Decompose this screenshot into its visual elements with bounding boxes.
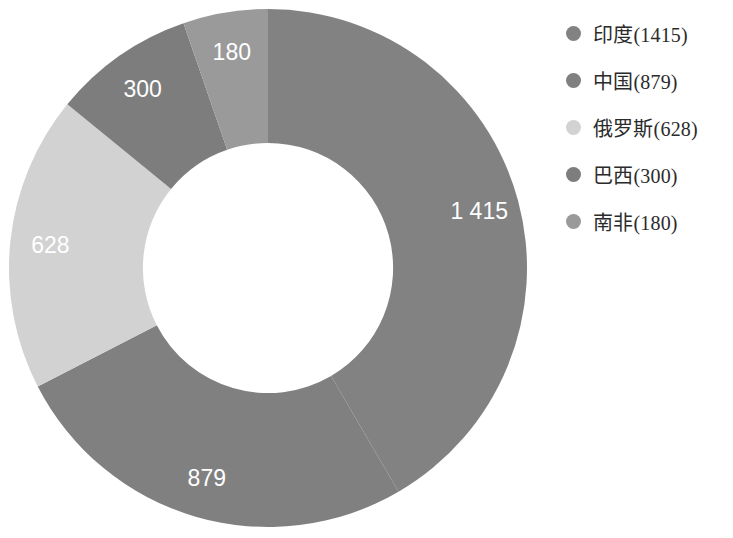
legend-item-label: 南非(180) bbox=[593, 207, 678, 236]
donut-chart: 1 415879628300180 印度(1415)中国(879)俄罗斯(628… bbox=[0, 0, 733, 538]
donut-slice-value-label: 628 bbox=[31, 232, 69, 258]
legend-item[interactable]: 印度(1415) bbox=[566, 10, 733, 57]
legend-item[interactable]: 俄罗斯(628) bbox=[566, 104, 733, 151]
donut-slice-value-label: 1 415 bbox=[450, 198, 508, 224]
donut-slice-value-label: 879 bbox=[188, 465, 226, 491]
legend-color-swatch-icon bbox=[566, 73, 581, 88]
legend-item[interactable]: 巴西(300) bbox=[566, 151, 733, 198]
legend-color-swatch-icon bbox=[566, 26, 581, 41]
donut-slice-value-label: 180 bbox=[213, 39, 251, 65]
donut-slices-group bbox=[9, 9, 527, 527]
legend-item-label: 俄罗斯(628) bbox=[593, 113, 698, 142]
legend-item[interactable]: 中国(879) bbox=[566, 57, 733, 104]
legend-color-swatch-icon bbox=[566, 120, 581, 135]
legend-item-label: 巴西(300) bbox=[593, 160, 678, 189]
legend-item-label: 中国(879) bbox=[593, 66, 678, 95]
chart-legend: 印度(1415)中国(879)俄罗斯(628)巴西(300)南非(180) bbox=[566, 10, 733, 245]
donut-slice-value-label: 300 bbox=[124, 76, 162, 102]
legend-item-label: 印度(1415) bbox=[593, 19, 688, 48]
legend-color-swatch-icon bbox=[566, 214, 581, 229]
legend-color-swatch-icon bbox=[566, 167, 581, 182]
legend-item[interactable]: 南非(180) bbox=[566, 198, 733, 245]
